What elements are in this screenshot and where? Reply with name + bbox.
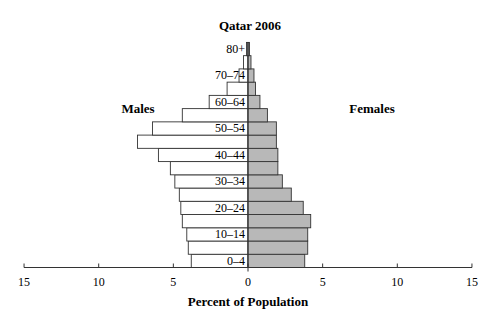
males-label: Males (121, 101, 154, 116)
female-bar (248, 201, 303, 214)
male-bar (182, 215, 248, 228)
age-group-label: 80+ (226, 42, 245, 56)
age-group-label: 10–14 (215, 227, 245, 241)
age-group-label: 30–34 (215, 174, 245, 188)
x-tick-label: 0 (245, 275, 251, 289)
age-group-label: 60–64 (215, 95, 245, 109)
female-bar (248, 109, 267, 122)
age-group-label: 0–4 (227, 254, 245, 268)
female-bar (248, 69, 254, 82)
female-bar (248, 95, 260, 108)
male-bar (244, 56, 248, 69)
females-label: Females (349, 101, 394, 116)
female-bar (248, 215, 311, 228)
age-group-label: 50–54 (215, 121, 245, 135)
population-pyramid-chart: Qatar 2006 Males Females 0–410–1420–2430… (0, 0, 504, 326)
age-group-label: 40–44 (215, 148, 245, 162)
chart-title: Qatar 2006 (219, 18, 282, 33)
age-labels-group: 0–410–1420–2430–3440–4450–5460–6470–7480… (215, 42, 245, 268)
age-group-label: 20–24 (215, 201, 245, 215)
x-tick-label: 15 (466, 275, 478, 289)
male-bar (182, 109, 248, 122)
male-bar (227, 82, 248, 95)
x-tick-label: 15 (18, 275, 30, 289)
male-bar (179, 188, 248, 201)
female-bar (248, 175, 282, 188)
x-tick-label: 10 (391, 275, 403, 289)
x-tick-label: 5 (320, 275, 326, 289)
x-axis-title: Percent of Population (188, 294, 309, 309)
female-bar (248, 148, 278, 161)
female-bar (248, 188, 291, 201)
female-bar (248, 241, 308, 254)
x-tick-label: 5 (170, 275, 176, 289)
male-bar (188, 241, 248, 254)
female-bar (248, 162, 278, 175)
x-tick-label: 10 (93, 275, 105, 289)
male-bar (170, 162, 248, 175)
female-bar (248, 254, 305, 267)
female-bar (248, 228, 308, 241)
female-bar (248, 82, 255, 95)
female-bar (248, 135, 276, 148)
age-group-label: 70–74 (215, 68, 245, 82)
male-bar (138, 135, 248, 148)
female-bar (248, 122, 276, 135)
